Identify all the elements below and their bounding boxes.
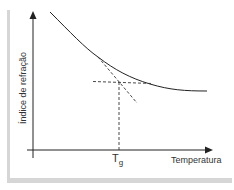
tangent-dashed-line [98, 57, 137, 103]
refractive-index-curve [50, 12, 207, 91]
y-axis-label: Índice de refração [18, 52, 28, 124]
x-axis-label: Temperatura [171, 155, 222, 165]
tg-subscript: g [119, 158, 123, 167]
tg-tick-label: Tg [112, 152, 123, 164]
tg-main: T [112, 152, 119, 164]
x-axis-arrow-icon [205, 147, 213, 154]
y-axis-arrow-icon [30, 11, 37, 19]
